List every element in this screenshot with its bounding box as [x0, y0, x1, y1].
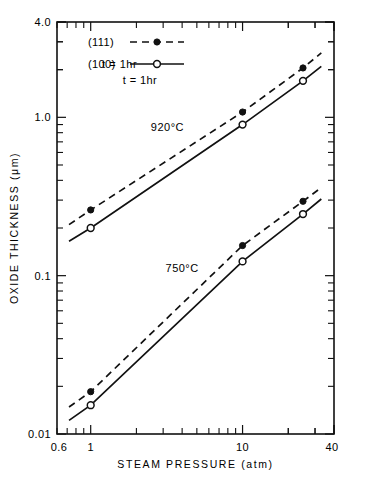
data-point [239, 109, 245, 115]
data-point [300, 198, 306, 204]
annotation-920C: 920°C [151, 121, 184, 133]
legend-label-111: (111) [88, 36, 114, 48]
y-tick-label: 0.01 [28, 428, 51, 440]
series-line-920C-111 [69, 53, 321, 225]
x-tick-label: 0.6 [51, 441, 68, 453]
data-point [300, 211, 307, 218]
x-tick-label: 40 [325, 441, 338, 453]
x-axis-title: STEAM PRESSURE (atm) [117, 458, 273, 470]
legend-label-100: (100) [88, 58, 116, 70]
legend-marker-111 [154, 39, 160, 45]
x-tick-label: 1 [87, 441, 94, 453]
data-point [239, 121, 246, 128]
x-tick-label: 10 [236, 441, 249, 453]
figure-canvas: 0.6110400.010.11.04.0STEAM PRESSURE (atm… [0, 0, 366, 481]
data-point [88, 207, 94, 213]
annotation-750C: 750°C [166, 262, 199, 274]
series-line-750C-100 [69, 199, 321, 420]
data-point [87, 225, 94, 232]
data-point [300, 65, 306, 71]
plot-frame [57, 22, 334, 434]
data-point [300, 77, 307, 84]
data-point [88, 389, 94, 395]
legend-marker-100 [154, 61, 161, 68]
oxide-thickness-vs-steam-pressure-chart: 0.6110400.010.11.04.0STEAM PRESSURE (atm… [0, 0, 366, 481]
y-tick-label: 0.1 [35, 270, 52, 282]
legend-note-duration: t = 1hr [123, 74, 157, 86]
data-point [239, 242, 245, 248]
y-tick-label: 1.0 [35, 111, 52, 123]
data-point [87, 402, 94, 409]
y-tick-label: 4.0 [35, 16, 52, 28]
series-line-750C-111 [69, 188, 321, 407]
y-axis-title: OXIDE THICKNESS (μm) [8, 152, 20, 304]
data-point [239, 258, 246, 265]
